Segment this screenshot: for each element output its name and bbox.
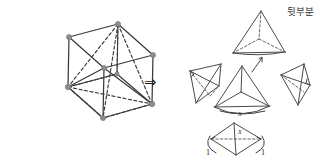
left-tetra-hidden-edge bbox=[210, 86, 219, 96]
transform-arrow-icon: ⇒ bbox=[144, 75, 157, 90]
tetrahedron-center: x bbox=[214, 66, 270, 118]
left-tetra-top-edge bbox=[190, 64, 221, 71]
cube-vertex-lower-left bbox=[65, 84, 71, 90]
cube-vertex-center-near bbox=[101, 65, 106, 70]
figure-canvas: x x 1 1 bbox=[0, 0, 333, 168]
center-tetra-base-edge bbox=[215, 106, 269, 107]
cube-hexagonal-projection bbox=[65, 21, 155, 120]
pointer-arrow-shaft bbox=[252, 58, 262, 72]
tetra-edge-top-to-bottom bbox=[103, 24, 118, 118]
cube-diagonal-center-to-left bbox=[68, 68, 104, 87]
cube-vertex-bottom bbox=[100, 115, 105, 120]
left-tetra-left-edge bbox=[190, 71, 196, 103]
curved-pointer-arrow bbox=[252, 57, 262, 72]
tetra-edge-left-to-bottom bbox=[68, 87, 103, 118]
right-tetra-top-edge bbox=[281, 64, 304, 75]
cube-vertex-upper-left bbox=[66, 34, 71, 39]
tetra-edge-top-to-left bbox=[68, 24, 118, 87]
back-tetra-left-edge bbox=[233, 11, 261, 53]
back-tetra-hidden-left bbox=[233, 39, 259, 53]
label-x-bottom: x bbox=[237, 127, 242, 136]
label-one-right: 1 bbox=[261, 148, 265, 157]
cube-vertex-top-back bbox=[115, 21, 120, 26]
right-tetra-hidden-diagonal bbox=[281, 75, 304, 92]
right-tetra-inner-edge-b bbox=[298, 64, 304, 105]
center-tetra-apex-to-mid bbox=[241, 66, 242, 92]
center-tetra-right-edge bbox=[242, 66, 269, 106]
tetrahedron-back-part bbox=[233, 11, 285, 55]
left-tetra-inner-edge-b bbox=[196, 86, 219, 103]
tetrahedron-bottom: x 1 1 bbox=[206, 123, 265, 157]
tetrahedron-left bbox=[190, 64, 221, 103]
bottom-tetra-apex-left-edge bbox=[211, 123, 234, 139]
geometry-figure: x x 1 1 ⇒ bbox=[0, 0, 333, 168]
center-tetra-mid-to-left bbox=[215, 92, 241, 107]
back-tetra-hidden-vertical bbox=[259, 11, 261, 39]
cube-vertex-center-hidden bbox=[115, 72, 119, 76]
cube-vertex-lower-right bbox=[149, 101, 155, 107]
label-one-left: 1 bbox=[206, 148, 210, 157]
tetra-edge-left-to-right bbox=[68, 87, 152, 104]
cube-vertex-upper-right bbox=[150, 52, 155, 57]
tetrahedron-right bbox=[281, 64, 310, 105]
back-part-label: 뒷부분 bbox=[287, 4, 315, 18]
right-tetra-upper-right-edge bbox=[304, 64, 310, 85]
label-x-center: x bbox=[237, 109, 242, 118]
